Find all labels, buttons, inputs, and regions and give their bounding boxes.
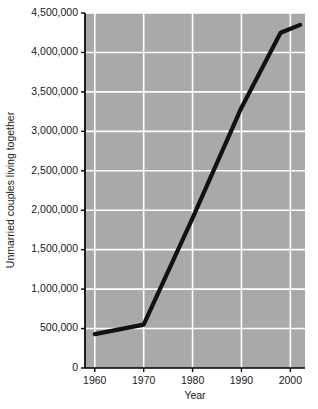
y-tick-label: 2,000,000 — [31, 203, 78, 215]
x-tick-label: 1990 — [230, 374, 254, 386]
x-tick-label: 1980 — [181, 374, 205, 386]
y-tick-label: 2,500,000 — [31, 164, 78, 176]
y-tick-label: 4,500,000 — [31, 6, 78, 18]
line-chart: 0500,0001,000,0001,500,0002,000,0002,500… — [0, 0, 318, 409]
y-tick-label: 3,500,000 — [31, 85, 78, 97]
y-tick-label: 0 — [72, 361, 78, 373]
x-tick-label: 2000 — [279, 374, 303, 386]
y-tick-label: 1,000,000 — [31, 282, 78, 294]
plot-area-background — [85, 13, 305, 368]
y-tick-label: 500,000 — [40, 321, 78, 333]
y-tick-label: 3,000,000 — [31, 124, 78, 136]
chart-container: 0500,0001,000,0001,500,0002,000,0002,500… — [0, 0, 318, 409]
x-axis-title: Year — [184, 389, 206, 401]
y-tick-label: 1,500,000 — [31, 242, 78, 254]
y-axis-title: Unmarried couples living together — [4, 111, 16, 268]
x-tick-label: 1970 — [132, 374, 156, 386]
y-tick-label: 4,000,000 — [31, 45, 78, 57]
x-tick-label: 1960 — [83, 374, 107, 386]
